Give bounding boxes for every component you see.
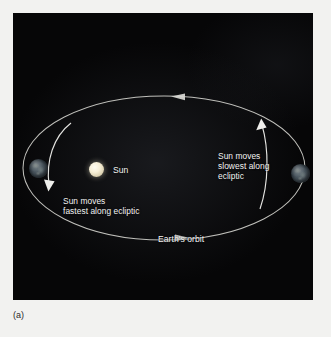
- label-sun-moves-slowest: Sun moves slowest along ecliptic: [218, 151, 269, 182]
- figure-panel-a: Sun Sun moves fastest along ecliptic Sun…: [0, 0, 331, 337]
- label-sun: Sun: [113, 165, 128, 175]
- earth-continents: [291, 164, 310, 183]
- earth-continents: [29, 159, 48, 178]
- orbit-direction-arrow-top: [171, 94, 185, 101]
- sky-panel: Sun Sun moves fastest along ecliptic Sun…: [13, 13, 313, 300]
- earth-sphere-aphelion: [291, 164, 310, 183]
- sun-sphere: [89, 162, 104, 177]
- aphelion-motion-arrowhead: [256, 119, 266, 131]
- label-earths-orbit: Earth's orbit: [158, 234, 204, 244]
- label-sun-moves-fastest: Sun moves fastest along ecliptic: [63, 196, 140, 216]
- perihelion-motion-arrowhead: [44, 179, 55, 191]
- perihelion-motion-arc: [48, 123, 71, 185]
- earth-sphere-perihelion: [29, 159, 48, 178]
- panel-caption: (a): [13, 310, 24, 320]
